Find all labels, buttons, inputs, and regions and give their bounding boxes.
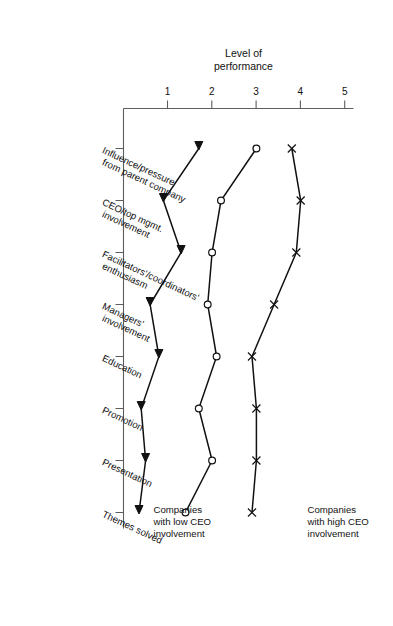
marker-circle: [213, 353, 220, 360]
legend-item-low-ceo: Companies with low CEO involvement: [152, 503, 211, 538]
legend-low-line1: Companies: [153, 503, 202, 514]
value-axis-title-line2: performance: [214, 59, 273, 71]
marker-circle: [208, 457, 215, 464]
category-labels: Influence/pressure from parent company C…: [100, 144, 200, 545]
value-tick-labels: 1 2 3 4 5: [164, 86, 347, 97]
series-middle: [182, 145, 260, 516]
marker-circle: [195, 405, 202, 412]
legend-item-high-ceo: Companies with high CEO involvement: [306, 503, 368, 538]
legend-low-line2: with low CEO: [152, 515, 211, 526]
marker-x: [287, 144, 295, 152]
marker-circle: [208, 249, 215, 256]
marker-triangle: [146, 297, 154, 306]
marker-triangle: [137, 401, 145, 410]
legend-high-line3: involvement: [307, 527, 359, 538]
legend-low-line3: involvement: [153, 527, 205, 538]
value-axis-title-line1: Level of: [225, 46, 262, 58]
marker-circle: [252, 145, 259, 152]
series-high-ceo: [248, 144, 305, 516]
tick-label-5: 5: [341, 86, 347, 97]
marker-triangle: [177, 245, 185, 254]
marker-triangle: [159, 193, 167, 202]
tick-label-2: 2: [209, 86, 215, 97]
marker-circle: [204, 301, 211, 308]
line-chart: 1 2 3 4 5 Level of performance Influence…: [0, 0, 393, 626]
marker-triangle: [135, 505, 143, 514]
legend: Companies with high CEO involvement Comp…: [152, 503, 368, 538]
marker-triangle: [154, 349, 162, 358]
value-ticks: [167, 100, 344, 108]
marker-triangle: [194, 141, 202, 150]
tick-label-1: 1: [164, 86, 170, 97]
marker-x: [248, 508, 256, 516]
tick-label-3: 3: [253, 86, 259, 97]
marker-circle: [217, 197, 224, 204]
legend-high-line1: Companies: [307, 503, 356, 514]
legend-high-line2: with high CEO: [306, 515, 368, 526]
value-axis-title: Level of performance: [214, 46, 273, 71]
rotated-figure: 1 2 3 4 5 Level of performance Influence…: [0, 0, 393, 626]
chart-page: 1 2 3 4 5 Level of performance Influence…: [0, 0, 393, 626]
marker-triangle: [141, 453, 149, 462]
tick-label-4: 4: [297, 86, 303, 97]
